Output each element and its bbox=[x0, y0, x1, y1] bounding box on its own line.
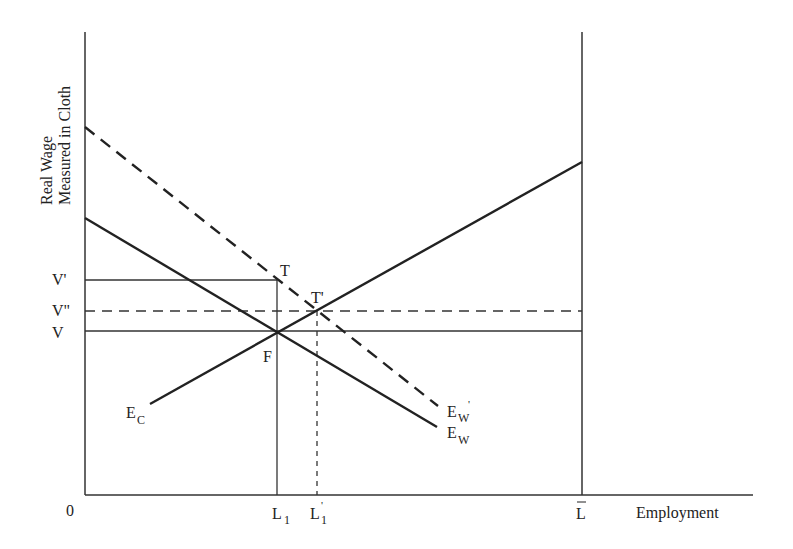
point-label-t-prime: T' bbox=[311, 289, 324, 306]
svg-text:': ' bbox=[468, 398, 470, 410]
svg-text:W: W bbox=[458, 433, 470, 447]
svg-text:L: L bbox=[576, 505, 586, 522]
curve-e-w bbox=[85, 218, 437, 427]
label-l-bar: L bbox=[576, 502, 586, 522]
point-label-f: F bbox=[263, 348, 272, 365]
origin-label: 0 bbox=[66, 502, 74, 519]
svg-text:E: E bbox=[447, 424, 457, 441]
svg-text:W: W bbox=[458, 411, 470, 425]
svg-text:1: 1 bbox=[321, 513, 327, 527]
svg-text:L: L bbox=[310, 505, 320, 522]
svg-text:': ' bbox=[321, 499, 323, 511]
x-axis-label: Employment bbox=[636, 504, 719, 522]
label-e-w: E W bbox=[447, 424, 470, 447]
y-axis-label-line1: Real Wage bbox=[38, 136, 56, 205]
labor-market-diagram: Real Wage Measured in Cloth V' V" V 0 L … bbox=[0, 0, 793, 549]
y-axis-label-line2: Measured in Cloth bbox=[56, 86, 73, 205]
label-l1-prime: L 1 ' bbox=[310, 499, 327, 527]
svg-text:L: L bbox=[272, 505, 282, 522]
label-v: V bbox=[52, 324, 64, 341]
svg-text:E: E bbox=[126, 404, 136, 421]
svg-text:C: C bbox=[137, 413, 145, 427]
curve-e-w-prime bbox=[85, 127, 438, 406]
label-e-w-prime: E W ' bbox=[447, 398, 470, 425]
curve-e-c bbox=[150, 162, 582, 404]
svg-text:1: 1 bbox=[284, 513, 290, 527]
label-v-prime: V' bbox=[52, 271, 67, 288]
svg-text:E: E bbox=[447, 403, 457, 420]
label-v-double-prime: V" bbox=[52, 302, 70, 319]
point-label-t: T bbox=[280, 262, 290, 279]
label-e-c: E C bbox=[126, 404, 145, 427]
label-l1: L 1 bbox=[272, 505, 290, 527]
